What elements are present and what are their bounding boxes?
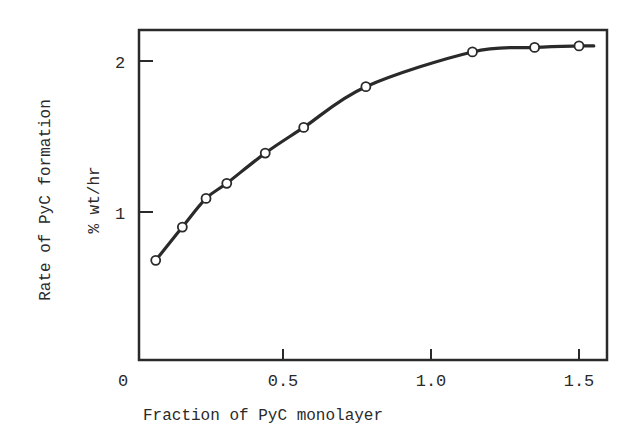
y-axis-ticks	[139, 61, 153, 212]
y-tick-label-2: 2	[115, 54, 125, 73]
origin-label: 0	[118, 372, 128, 391]
data-point-marker	[361, 82, 370, 91]
x-axis-title: Fraction of PyC monolayer	[143, 407, 383, 425]
fitted-curve	[156, 46, 594, 261]
data-point-marker	[530, 43, 539, 52]
data-point-marker	[468, 47, 477, 56]
data-points	[151, 41, 583, 264]
data-point-marker	[575, 41, 584, 50]
data-point-marker	[222, 179, 231, 188]
y-axis-units: % wt/hr	[86, 166, 104, 233]
data-point-marker	[299, 123, 308, 132]
x-tick-label-1.0: 1.0	[416, 372, 447, 391]
data-point-marker	[151, 256, 160, 265]
x-axis-ticks	[283, 349, 579, 360]
x-tick-label-1.5: 1.5	[564, 372, 595, 391]
data-point-marker	[202, 194, 211, 203]
y-axis-title: Rate of PyC formation	[37, 99, 55, 301]
chart: 2 1 0 0.5 1.0 1.5 Fraction of PyC monola…	[0, 0, 640, 438]
x-tick-label-0.5: 0.5	[268, 372, 299, 391]
y-tick-label-1: 1	[115, 205, 125, 224]
curve-path	[156, 46, 594, 261]
data-point-marker	[261, 149, 270, 158]
data-point-marker	[178, 223, 187, 232]
